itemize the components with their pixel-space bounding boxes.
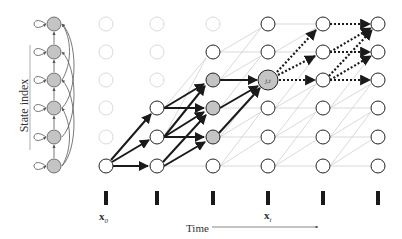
observation-label-xt: xt xyxy=(264,209,271,224)
xt-sub: t xyxy=(270,216,272,224)
faded-nodes xyxy=(99,17,220,144)
observation-label-x0: x0 xyxy=(99,210,108,225)
y-axis-label: State index xyxy=(17,66,32,146)
x-axis-label: Time xyxy=(186,222,209,234)
state-chain xyxy=(30,17,74,173)
highlight-node-label: j,t xyxy=(264,77,272,85)
bold-edges xyxy=(111,80,260,166)
shaded-nodes xyxy=(206,73,220,144)
trellis-diagram: j,t xyxy=(0,0,402,239)
x0-sub: 0 xyxy=(105,217,109,225)
observation-bars xyxy=(104,191,380,205)
